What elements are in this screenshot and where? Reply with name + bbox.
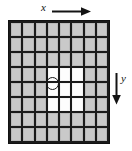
y-axis-annotation: y <box>110 68 132 108</box>
grid-cell <box>72 128 82 141</box>
grid-cell <box>23 23 33 36</box>
grid-cell <box>23 113 33 126</box>
grid-cell <box>72 38 82 51</box>
grid-cell <box>48 113 58 126</box>
grid-cell <box>60 113 70 126</box>
grid-cell <box>85 113 95 126</box>
grid-cell <box>60 128 70 141</box>
grid-cell <box>97 113 107 126</box>
grid-cell <box>60 83 70 96</box>
grid-cell <box>60 53 70 66</box>
grid-cell <box>72 83 82 96</box>
grid-cell <box>23 68 33 81</box>
grid-diagram: x y <box>0 0 132 151</box>
grid-cell <box>23 128 33 141</box>
grid-cell <box>48 23 58 36</box>
grid-cell <box>60 23 70 36</box>
grid-cell <box>97 38 107 51</box>
grid-cell <box>85 98 95 111</box>
grid-cell <box>72 98 82 111</box>
x-axis-label: x <box>41 1 46 13</box>
y-axis-label: y <box>121 72 126 84</box>
grid-cell <box>48 53 58 66</box>
grid-cell <box>97 53 107 66</box>
grid-cell <box>36 23 46 36</box>
grid-cell <box>72 23 82 36</box>
grid-cell <box>11 23 21 36</box>
grid-cell <box>11 68 21 81</box>
grid-cell <box>85 38 95 51</box>
arrow-down-icon <box>112 73 121 105</box>
grid-cell <box>36 53 46 66</box>
circle-marker <box>46 77 59 90</box>
grid-cell <box>48 98 58 111</box>
grid-cell <box>23 98 33 111</box>
grid-cell <box>36 128 46 141</box>
grid-cell <box>72 68 82 81</box>
grid-cell <box>36 98 46 111</box>
grid-cell <box>36 83 46 96</box>
x-axis-annotation: x <box>40 0 94 18</box>
grid-cell <box>36 113 46 126</box>
grid-cell <box>23 38 33 51</box>
grid-cell <box>48 38 58 51</box>
grid-cell <box>23 53 33 66</box>
grid-cell <box>85 83 95 96</box>
grid-cell <box>36 68 46 81</box>
grid-cell <box>11 83 21 96</box>
grid-cell <box>97 98 107 111</box>
grid-cell <box>11 113 21 126</box>
grid-cell <box>11 128 21 141</box>
grid-cell <box>60 98 70 111</box>
grid-cell <box>97 128 107 141</box>
grid-cell <box>60 68 70 81</box>
cell-grid <box>8 20 110 144</box>
grid-cell <box>85 128 95 141</box>
grid-cell <box>97 83 107 96</box>
grid-cell <box>97 23 107 36</box>
grid-cell <box>85 53 95 66</box>
grid-cell <box>48 128 58 141</box>
grid-cell <box>36 38 46 51</box>
grid-cell <box>85 68 95 81</box>
grid-cell <box>85 23 95 36</box>
grid-cell <box>72 113 82 126</box>
grid-cell <box>11 53 21 66</box>
grid-cell <box>60 38 70 51</box>
grid-cell <box>97 68 107 81</box>
grid-cell <box>72 53 82 66</box>
grid-cell <box>23 83 33 96</box>
arrow-right-icon <box>52 7 92 16</box>
grid-cell <box>11 98 21 111</box>
grid-cell <box>11 38 21 51</box>
